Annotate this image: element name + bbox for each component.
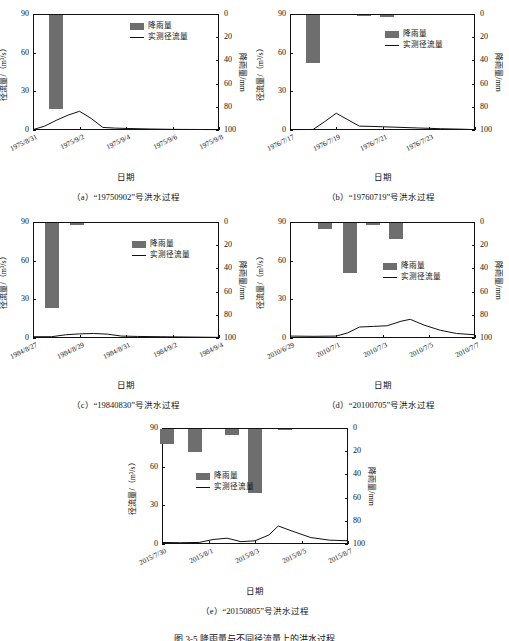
y-axis-title-left-e: 径流量/（m³/s） bbox=[126, 429, 137, 545]
x-axis-title-e: 日期 bbox=[162, 584, 348, 596]
legend-e: 降雨量实测径流量 bbox=[196, 472, 254, 494]
legend-line-swatch-e bbox=[196, 487, 210, 488]
chart-panel-e: 03060900204060801002015/7/302015/8/12015… bbox=[0, 0, 509, 641]
figure-caption: 图 3-5 降雨量与不同径流量上的洪水过程 bbox=[0, 632, 509, 641]
runoff-line-e bbox=[0, 0, 509, 641]
subplot-caption-e: （e）“20150805”号洪水过程 bbox=[162, 604, 348, 616]
figure-container: 03060900204060801001975/8/311975/9/21975… bbox=[0, 0, 509, 641]
y-axis-title-right-e: 降雨量/mm bbox=[367, 429, 378, 545]
legend-label-runoff-e: 实测径流量 bbox=[214, 483, 254, 491]
legend-swatch-rainfall-e bbox=[196, 473, 210, 480]
legend-row-runoff-e: 实测径流量 bbox=[196, 483, 254, 491]
figure-caption-clip: 图 3-5 降雨量与不同径流量上的洪水过程 bbox=[0, 632, 509, 641]
legend-label-rainfall-e: 降雨量 bbox=[214, 472, 238, 480]
legend-row-rainfall-e: 降雨量 bbox=[196, 472, 254, 480]
